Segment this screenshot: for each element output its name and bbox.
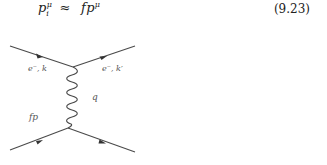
arrow-icon: [36, 54, 43, 59]
label-incoming-parton: fp: [28, 112, 38, 122]
incoming-parton-line: [10, 128, 68, 150]
label-incoming-electron: e⁻, k: [28, 64, 47, 73]
label-outgoing-electron: e⁻, k′: [102, 64, 123, 73]
photon-propagator: [67, 67, 78, 128]
feynman-diagram: e⁻, k e⁻, k′ q fp: [0, 0, 327, 165]
label-photon: q: [92, 92, 98, 102]
outgoing-parton-line: [68, 128, 135, 152]
arrow-icon: [36, 140, 43, 145]
arrow-icon: [100, 56, 108, 60]
